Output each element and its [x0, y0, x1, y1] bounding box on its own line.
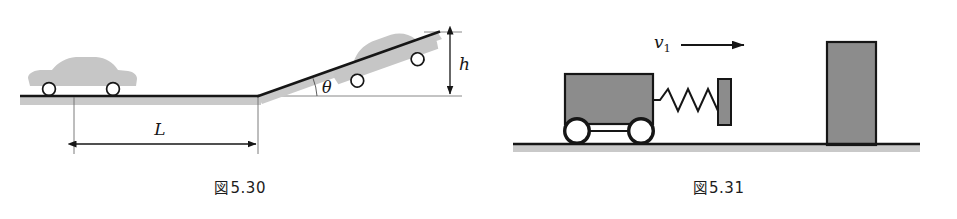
velocity-indicator: v1: [654, 32, 744, 55]
road-fill: [20, 97, 261, 105]
length-label-L: L: [153, 119, 165, 139]
figure-5-30-drawing: θ h L: [0, 0, 480, 176]
caption-kanji-zu: 図: [214, 180, 229, 196]
car-wheel-flat-rear: [43, 83, 56, 96]
cart-body: [565, 74, 653, 124]
velocity-subscript: 1: [664, 41, 671, 55]
velocity-symbol: v: [654, 32, 664, 52]
figure-5-30-caption: 図5.30: [0, 176, 480, 197]
car-on-flat-road: [28, 57, 137, 95]
spring-end-plate: [718, 79, 731, 125]
velocity-label-v1: v1: [654, 32, 671, 55]
cart-wheel-front: [629, 119, 654, 144]
figure-5-31-caption: 図5.31: [480, 176, 957, 197]
figure-5-30-panel: θ h L 図5.30: [0, 0, 480, 219]
spring-coil: [654, 89, 726, 111]
wall-block: [827, 42, 876, 145]
figure-5-31-panel: v1 図5.31: [480, 0, 957, 219]
caption-kanji-zu: 図: [693, 180, 708, 196]
cart: [565, 74, 654, 143]
car-body-flat: [28, 57, 137, 86]
caption-number: 5.31: [709, 179, 744, 197]
figure-sheet: θ h L 図5.30 v1: [0, 0, 957, 219]
angle-label-theta: θ: [322, 78, 332, 97]
car-wheel-flat-front: [107, 83, 120, 96]
cart-wheel-rear: [565, 119, 590, 144]
figure-5-31-drawing: v1: [480, 0, 957, 176]
caption-number: 5.30: [231, 179, 266, 197]
height-label-h: h: [459, 54, 470, 74]
